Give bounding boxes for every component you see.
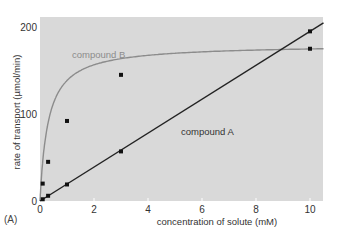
svg-text:8: 8 [253, 204, 259, 215]
svg-text:200: 200 [20, 22, 37, 33]
plot-area [40, 17, 323, 201]
y-axis-ticks: 0100200 [20, 22, 37, 207]
y-axis-label: rate of transport (µmol/min) [11, 55, 22, 170]
x-axis-label: concentration of solute (mM) [157, 216, 277, 227]
svg-text:2: 2 [91, 204, 97, 215]
svg-text:4: 4 [145, 204, 151, 215]
compound-b-label: compound B [72, 49, 125, 60]
svg-text:100: 100 [20, 109, 37, 120]
svg-text:0: 0 [37, 204, 43, 215]
svg-text:10: 10 [304, 204, 316, 215]
panel-label: (A) [4, 214, 17, 225]
svg-text:6: 6 [199, 204, 205, 215]
chart: 0246810 0100200 compound B compound A co… [0, 0, 340, 242]
svg-text:0: 0 [31, 196, 37, 207]
compound-a-label: compound A [181, 126, 234, 137]
